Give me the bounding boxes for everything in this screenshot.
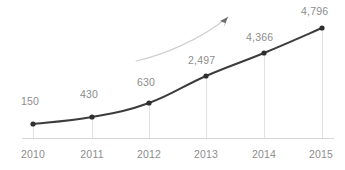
x-axis-tick-2015: 2015 — [301, 148, 341, 160]
data-point-marker-group — [30, 25, 324, 126]
chart-canvas — [0, 0, 345, 170]
value-label-2010: 150 — [21, 95, 39, 107]
value-label-2015: 4,796 — [301, 5, 328, 17]
data-point-marker-2012 — [146, 100, 151, 105]
value-label-2011: 430 — [80, 88, 98, 100]
value-label-2014: 4,366 — [246, 31, 273, 43]
x-axis-tick-2012: 2012 — [129, 148, 169, 160]
data-point-marker-2013 — [203, 73, 208, 78]
x-axis-tick-2010: 2010 — [13, 148, 53, 160]
data-point-marker-2014 — [261, 50, 266, 55]
value-label-2012: 630 — [137, 76, 155, 88]
x-axis-tick-2011: 2011 — [72, 148, 112, 160]
data-line — [33, 28, 322, 124]
x-axis-tick-2013: 2013 — [186, 148, 226, 160]
data-point-marker-2010 — [30, 121, 35, 126]
line-chart-growth: 1504306302,4974,3664,796 201020112012201… — [0, 0, 345, 170]
x-axis-tick-2014: 2014 — [244, 148, 284, 160]
data-point-marker-2011 — [89, 114, 94, 119]
data-point-marker-2015 — [319, 25, 324, 30]
value-label-2013: 2,497 — [188, 54, 215, 66]
